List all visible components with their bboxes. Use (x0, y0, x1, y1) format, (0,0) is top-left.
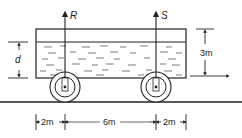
depth-dimension: d (8, 42, 28, 78)
tank (36, 29, 186, 78)
depth-label: d (15, 54, 21, 65)
force-R-label: R (70, 10, 77, 21)
tank-truck-diagram: R S d 3m 2m 6m 2m (0, 0, 242, 138)
force-R: R (65, 10, 77, 78)
height-dimension: 3m (190, 29, 228, 76)
span-dimensions: 2m 6m 2m (36, 114, 186, 130)
span-label-left: 2m (41, 117, 54, 127)
force-S: S (156, 10, 168, 78)
span-label-right: 2m (163, 117, 176, 127)
force-S-label: S (161, 10, 168, 21)
height-label: 3m (200, 48, 213, 58)
water-hatching (40, 46, 182, 75)
span-label-middle: 6m (103, 117, 116, 127)
